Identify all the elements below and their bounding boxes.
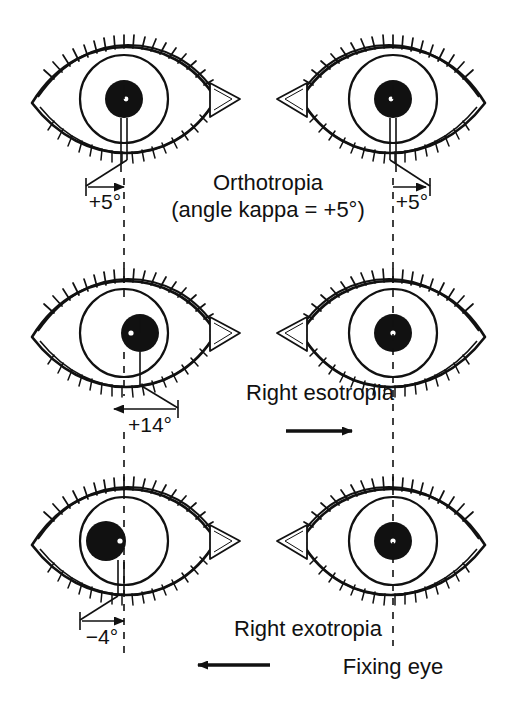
eye-deviation-figure: +5° +5° Orthotropia (angle kappa = +5°) xyxy=(0,0,519,707)
right-deviation-label: +5° xyxy=(396,190,428,213)
figure-title-line-1: Orthotropia xyxy=(213,170,324,195)
corneal-light-reflex xyxy=(128,330,133,335)
left-deviation-label: −4° xyxy=(86,625,118,648)
esotropia-condition-label: Right esotropia xyxy=(246,380,395,405)
corneal-light-reflex xyxy=(117,538,122,543)
exotropia-condition-label: Right exotropia xyxy=(234,616,383,641)
left-deviation-label: +5° xyxy=(89,190,121,213)
left-deviation-label: +14° xyxy=(128,413,172,436)
fixing-eye-label: Fixing eye xyxy=(343,654,443,679)
figure-title-line-2: (angle kappa = +5°) xyxy=(171,197,365,222)
